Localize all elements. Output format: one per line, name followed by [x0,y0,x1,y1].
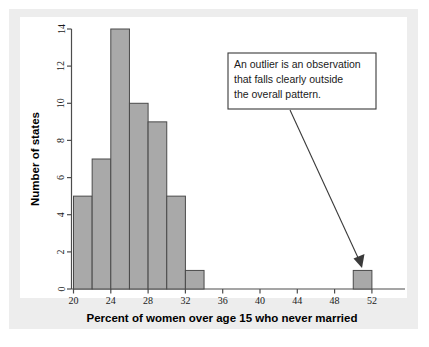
y-tick-label: 10 [56,98,67,108]
x-tick-label: 32 [180,295,190,306]
histogram-bar [353,270,372,289]
x-tick-label: 24 [106,295,116,306]
y-tick-label: 2 [56,249,67,254]
x-tick-label: 28 [143,295,153,306]
histogram-chart: 0 2 4 6 8 10 12 14 Number of states 20 2… [0,0,429,347]
x-axis-ticks [74,289,372,294]
y-tick-label: 14 [56,24,67,34]
x-tick-label: 52 [367,295,377,306]
histogram-bar [148,122,167,289]
y-tick-label: 6 [56,175,67,180]
y-tick-label: 8 [56,138,67,143]
y-axis-title: Number of states [29,112,41,206]
histogram-bar [185,270,204,289]
y-tick-label: 12 [56,61,67,71]
histogram-bar [129,103,148,289]
annotation-line-1: An outlier is an observation [234,58,361,70]
x-tick-label: 36 [218,295,228,306]
annotation-line-2: that falls clearly outside [234,73,343,85]
annotation-line-3: the overall pattern. [234,88,321,100]
y-tick-label: 4 [56,212,67,217]
x-tick-label: 20 [69,295,79,306]
annotation-arrow-line [290,110,360,262]
y-tick-label: 0 [56,287,67,292]
y-axis-tick-labels: 0 2 4 6 8 10 12 14 [56,24,67,292]
histogram-bar [111,29,130,289]
y-axis-ticks [67,29,72,289]
histogram-bar [167,196,186,289]
x-axis-title: Percent of women over age 15 who never m… [87,312,358,324]
histogram-figure: 0 2 4 6 8 10 12 14 Number of states 20 2… [0,0,429,347]
x-axis-tick-labels: 20 24 28 32 36 40 44 48 52 [69,295,377,306]
x-tick-label: 40 [255,295,265,306]
annotation-arrow-head [354,254,365,268]
histogram-bar [74,196,93,289]
x-tick-label: 48 [330,295,340,306]
histogram-bar [92,159,111,289]
outlier-annotation: An outlier is an observation that falls … [228,53,376,268]
x-tick-label: 44 [292,295,302,306]
